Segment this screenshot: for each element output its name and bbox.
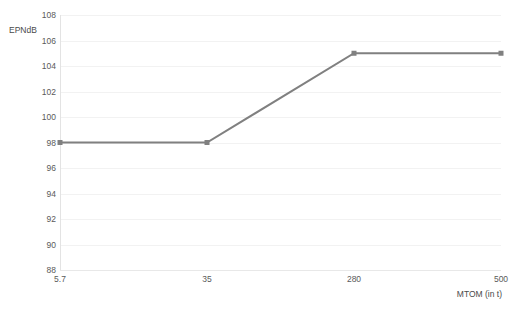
y-axis-tick-label: 104 [4, 61, 56, 71]
y-axis-tick-label: 108 [4, 10, 56, 20]
chart-container: EPNdB 889092949698100102104106108 5.7352… [0, 0, 513, 312]
data-point-marker [58, 140, 63, 145]
x-axis-tick-label: 500 [494, 274, 508, 284]
y-axis-tick-label: 102 [4, 87, 56, 97]
y-axis-tick-labels: 889092949698100102104106108 [0, 0, 56, 312]
y-axis-tick-label: 106 [4, 36, 56, 46]
y-axis-tick-label: 96 [4, 163, 56, 173]
y-axis-tick-label: 92 [4, 214, 56, 224]
y-axis-tick-label: 98 [4, 138, 56, 148]
y-axis-tick-label: 100 [4, 112, 56, 122]
x-axis-tick-label: 35 [202, 274, 211, 284]
data-point-marker [205, 140, 210, 145]
x-axis-line [60, 270, 501, 271]
data-series-line [60, 15, 501, 270]
y-axis-tick-label: 88 [4, 265, 56, 275]
data-point-marker [352, 51, 357, 56]
y-axis-tick-label: 94 [4, 189, 56, 199]
x-axis-title: MTOM (in t) [457, 289, 502, 299]
y-axis-tick-label: 90 [4, 240, 56, 250]
x-axis-tick-label: 280 [347, 274, 361, 284]
data-point-marker [499, 51, 504, 56]
series-polyline [60, 53, 501, 142]
x-axis-tick-label: 5.7 [54, 274, 66, 284]
